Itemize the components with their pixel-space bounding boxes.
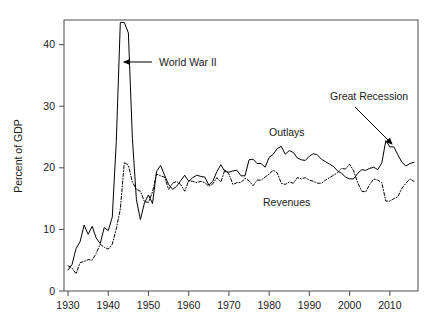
y-tick-label: 30 xyxy=(43,100,55,112)
x-axis: 193019401950196019701980199020002010 xyxy=(56,291,401,311)
x-tick-label: 1990 xyxy=(298,299,322,311)
chart-background xyxy=(0,0,444,336)
x-tick-label: 1960 xyxy=(177,299,201,311)
x-tick-label: 1940 xyxy=(97,299,121,311)
y-tick-label: 0 xyxy=(49,285,55,297)
x-tick-label: 1950 xyxy=(137,299,161,311)
y-tick-label: 40 xyxy=(43,38,55,50)
series-label-outlays: Outlays xyxy=(269,126,305,138)
y-axis-title: Percent of GDP xyxy=(12,119,24,193)
percent-of-gdp-line-chart: 010203040 193019401950196019701980199020… xyxy=(0,0,444,336)
x-tick-label: 2010 xyxy=(378,299,402,311)
annotation-label: Great Recession xyxy=(330,90,408,102)
y-tick-label: 10 xyxy=(43,223,55,235)
annotation-label: World War II xyxy=(159,56,217,68)
x-tick-label: 1980 xyxy=(257,299,281,311)
x-tick-label: 1930 xyxy=(56,299,80,311)
x-tick-label: 1970 xyxy=(217,299,241,311)
x-tick-label: 2000 xyxy=(338,299,362,311)
y-tick-label: 20 xyxy=(43,161,55,173)
chart-page: 010203040 193019401950196019701980199020… xyxy=(0,0,444,336)
series-label-revenues: Revenues xyxy=(263,196,310,208)
